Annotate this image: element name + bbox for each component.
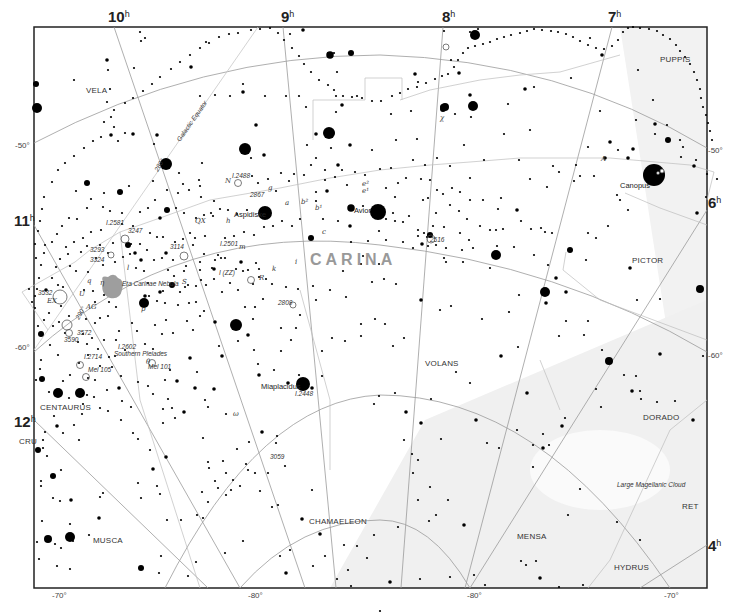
star-name: Avior: [354, 206, 371, 215]
star: [412, 472, 414, 474]
ra-label: 11h: [14, 212, 35, 229]
star: [212, 215, 214, 217]
star: [289, 33, 291, 35]
star: [303, 63, 305, 65]
star: [628, 266, 632, 270]
star: [243, 231, 245, 233]
star: [298, 95, 300, 97]
star: [495, 229, 497, 231]
star: [99, 317, 101, 319]
star: [616, 194, 618, 196]
star: [273, 369, 275, 371]
star: [147, 207, 149, 209]
star: [447, 499, 449, 501]
star: [35, 257, 37, 259]
star: [695, 159, 697, 161]
star: [186, 320, 188, 322]
star: [224, 552, 226, 554]
star: [222, 460, 224, 462]
star: [420, 178, 422, 180]
star: [107, 315, 109, 317]
star: [711, 139, 713, 141]
star: [203, 214, 205, 216]
star: [140, 497, 142, 499]
star: [276, 435, 278, 437]
star: [293, 173, 295, 175]
star: [143, 294, 147, 298]
constellation-label: MENSA: [517, 532, 547, 541]
star: [121, 212, 123, 214]
star: [161, 333, 163, 335]
star: [264, 95, 266, 97]
star: [253, 349, 255, 351]
star: [214, 480, 216, 482]
star: [541, 446, 545, 450]
star: [447, 73, 449, 75]
star: [106, 389, 108, 391]
star: [257, 182, 259, 184]
star: [42, 439, 44, 441]
star: [336, 71, 338, 73]
star: [457, 71, 461, 75]
object-label: 3247: [128, 227, 143, 234]
star: [700, 97, 702, 99]
star: [427, 197, 429, 199]
star: [149, 449, 151, 451]
star: [627, 209, 629, 211]
dec-label: -70°: [664, 591, 679, 600]
star: [262, 153, 266, 157]
star: [295, 327, 297, 329]
star: [442, 193, 444, 195]
star: [327, 52, 329, 54]
star: [692, 164, 696, 168]
star: [587, 44, 589, 46]
star: [468, 239, 470, 241]
star: [348, 50, 354, 56]
star: [252, 318, 254, 320]
star: [175, 379, 179, 383]
star: [312, 285, 314, 287]
star: [371, 281, 373, 283]
star: [237, 289, 239, 291]
star: [429, 486, 431, 488]
star: [212, 267, 216, 271]
star: [69, 568, 71, 570]
star: [385, 218, 387, 220]
star: [88, 534, 90, 536]
star: [548, 444, 550, 446]
star: [658, 352, 662, 356]
star: [322, 218, 324, 220]
star: [565, 33, 567, 35]
star: [532, 444, 534, 446]
bayer-letter: χ: [439, 114, 445, 122]
star: [324, 169, 326, 171]
object-label: 2808: [277, 299, 293, 306]
star: [458, 210, 460, 212]
star: [593, 175, 595, 177]
bright-star: [605, 357, 613, 365]
star: [526, 30, 528, 32]
bayer-letter: b¹: [315, 204, 322, 212]
star: [564, 290, 568, 294]
star: [631, 147, 635, 151]
star: [265, 278, 267, 280]
star: [550, 30, 552, 32]
star: [189, 54, 191, 56]
star: [462, 261, 464, 263]
star: [489, 41, 491, 43]
star: [499, 354, 503, 358]
star: [371, 100, 373, 102]
star: [627, 27, 629, 29]
star: [564, 417, 566, 419]
star: [453, 66, 455, 68]
star: [639, 27, 641, 29]
star: [705, 196, 707, 198]
star: [443, 30, 445, 32]
star: [137, 381, 139, 383]
object-label: Large Magellanic Cloud: [617, 481, 686, 489]
dec-label: -70°: [52, 591, 67, 600]
star: [639, 390, 641, 392]
star: [277, 504, 279, 506]
star: [255, 262, 257, 264]
star: [635, 375, 637, 377]
